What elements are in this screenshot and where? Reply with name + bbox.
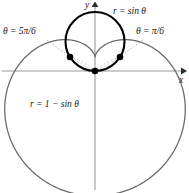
circle-equation-label: r = sin θ: [113, 7, 146, 17]
theta-left-label: θ = 5π/6: [3, 27, 36, 37]
y-axis-label: y: [85, 1, 89, 11]
y-axis-arrowhead: [92, 2, 99, 8]
x-axis-label: x: [179, 76, 183, 86]
intersection-point-origin: [92, 68, 99, 75]
x-axis-arrowhead: [181, 68, 187, 75]
polar-curve-figure: r = sin θ r = 1 − sin θ θ = 5π/6 θ = π/6…: [0, 0, 189, 193]
theta-right-label: θ = π/6: [136, 27, 164, 37]
intersection-point-right: [117, 54, 124, 61]
cardioid-equation-label: r = 1 − sin θ: [30, 100, 79, 110]
intersection-point-left: [67, 54, 74, 61]
